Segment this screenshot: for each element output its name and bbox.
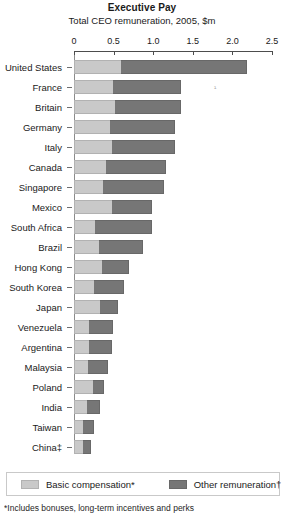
bar-segment-basic — [74, 80, 113, 94]
bar-segment-other — [94, 280, 124, 294]
stacked-bar — [74, 200, 152, 214]
bar-segment-other — [112, 200, 152, 214]
category-label-taiwan: Taiwan — [0, 417, 62, 437]
category-tick — [67, 427, 72, 428]
category-label-japan: Japan — [0, 297, 62, 317]
bar-segment-basic — [74, 420, 83, 434]
category-tick — [67, 347, 72, 348]
bar-segment-other — [83, 420, 94, 434]
x-axis-line — [74, 51, 272, 52]
category-tick — [67, 327, 72, 328]
bar-row: Venezuela — [0, 317, 284, 337]
bar-segment-other — [99, 240, 143, 254]
x-tick-label-5: 2.5 — [266, 36, 279, 46]
bar-segment-basic — [74, 180, 103, 194]
bar-row: Argentina — [0, 337, 284, 357]
category-label-brazil: Brazil — [0, 237, 62, 257]
bar-segment-basic — [74, 360, 88, 374]
bar-segment-basic — [74, 160, 106, 174]
stacked-bar — [74, 140, 175, 154]
category-tick — [67, 207, 72, 208]
x-tick-0 — [74, 51, 75, 55]
chart-footnote: *Includes bonuses, long-term incentives … — [4, 503, 284, 513]
bar-segment-other — [87, 400, 100, 414]
bar-segment-basic — [74, 320, 89, 334]
bar-row: Germany — [0, 117, 284, 137]
bar-segment-other — [121, 60, 247, 74]
category-tick — [67, 187, 72, 188]
x-tick-3 — [193, 51, 194, 55]
stacked-bar — [74, 420, 94, 434]
category-tick — [67, 67, 72, 68]
annotation-marker: ¹ — [214, 84, 216, 91]
bar-row: Brazil — [0, 237, 284, 257]
bar-row: Italy — [0, 137, 284, 157]
category-tick — [67, 87, 72, 88]
bar-segment-basic — [74, 60, 121, 74]
stacked-bar — [74, 220, 152, 234]
x-tick-label-4: 2.0 — [226, 36, 239, 46]
bar-segment-other — [102, 260, 129, 274]
category-tick — [67, 127, 72, 128]
category-label-italy: Italy — [0, 137, 62, 157]
category-tick — [67, 367, 72, 368]
plot-area: 00.51.01.52.02.5 United StatesFranceBrit… — [0, 0, 284, 516]
category-tick — [67, 107, 72, 108]
stacked-bar — [74, 120, 175, 134]
bar-segment-other — [93, 380, 104, 394]
chart-legend: Basic compensation* Other remuneration† — [6, 472, 280, 496]
stacked-bar — [74, 100, 181, 114]
stacked-bar — [74, 80, 181, 94]
bar-row: Malaysia — [0, 357, 284, 377]
x-tick-label-2: 1.0 — [147, 36, 160, 46]
category-label-south-africa: South Africa — [0, 217, 62, 237]
x-tick-5 — [272, 51, 273, 55]
bar-segment-basic — [74, 260, 102, 274]
bar-segment-basic — [74, 240, 99, 254]
bar-segment-other — [83, 440, 91, 454]
stacked-bar — [74, 400, 100, 414]
category-label-argentina: Argentina — [0, 337, 62, 357]
bar-segment-basic — [74, 300, 100, 314]
category-tick — [67, 407, 72, 408]
bar-segment-basic — [74, 120, 110, 134]
category-label-france: France — [0, 77, 62, 97]
legend-item-basic-compensation: Basic compensation* — [21, 479, 135, 490]
category-tick — [67, 387, 72, 388]
bar-segment-basic — [74, 200, 112, 214]
stacked-bar — [74, 440, 91, 454]
stacked-bar — [74, 280, 124, 294]
stacked-bar — [74, 380, 104, 394]
category-label-united-states: United States — [0, 57, 62, 77]
category-tick — [67, 227, 72, 228]
category-tick — [67, 147, 72, 148]
stacked-bar — [74, 60, 247, 74]
bar-segment-other — [88, 360, 108, 374]
bar-segment-basic — [74, 280, 94, 294]
bar-row: Poland — [0, 377, 284, 397]
bar-segment-other — [115, 100, 181, 114]
executive-pay-chart: Executive Pay Total CEO remuneration, 20… — [0, 0, 284, 516]
stacked-bar — [74, 240, 143, 254]
legend-item-other-remuneration: Other remuneration† — [169, 479, 282, 490]
bar-row: Canada — [0, 157, 284, 177]
category-label-venezuela: Venezuela — [0, 317, 62, 337]
bar-row: United States — [0, 57, 284, 77]
bar-row: Taiwan — [0, 417, 284, 437]
x-tick-1 — [114, 51, 115, 55]
x-tick-label-0: 0 — [71, 36, 76, 46]
bar-segment-basic — [74, 220, 95, 234]
stacked-bar — [74, 300, 118, 314]
bar-row: South Africa — [0, 217, 284, 237]
category-label-singapore: Singapore — [0, 177, 62, 197]
stacked-bar — [74, 180, 164, 194]
bar-segment-basic — [74, 140, 112, 154]
category-label-britain: Britain — [0, 97, 62, 117]
bar-row: India — [0, 397, 284, 417]
bar-segment-other — [106, 160, 166, 174]
x-tick-label-1: 0.5 — [107, 36, 120, 46]
bar-row: Britain — [0, 97, 284, 117]
stacked-bar — [74, 320, 113, 334]
bar-segment-other — [110, 120, 175, 134]
bar-segment-other — [100, 300, 118, 314]
